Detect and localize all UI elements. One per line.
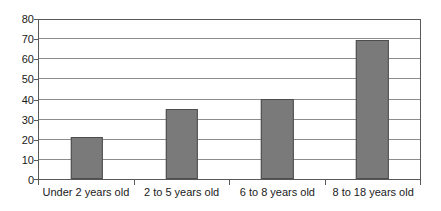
bar-slot <box>230 20 325 179</box>
bar-slot <box>325 20 420 179</box>
y-axis-tick-label: 10 <box>0 154 34 165</box>
x-axis-category-label: 6 to 8 years old <box>230 186 326 199</box>
bar <box>70 137 102 179</box>
y-axis-tick-label: 50 <box>0 74 34 85</box>
x-axis-tick-mark <box>38 180 39 185</box>
x-axis-labels: Under 2 years old2 to 5 years old6 to 8 … <box>38 186 421 199</box>
y-axis-tick-label: 20 <box>0 134 34 145</box>
x-axis-category-label: 2 to 5 years old <box>134 186 230 199</box>
x-axis-category-label: 8 to 18 years old <box>325 186 421 199</box>
bar <box>261 99 293 179</box>
bar-chart: 01020304050607080 Under 2 years old2 to … <box>0 0 441 211</box>
x-axis-ticks <box>38 180 421 185</box>
y-axis-tick-label: 80 <box>0 14 34 25</box>
x-axis-tick-mark <box>420 180 421 185</box>
y-axis-tick-label: 0 <box>0 175 34 186</box>
y-axis-tick-label: 40 <box>0 94 34 105</box>
y-axis-tick-label: 60 <box>0 54 34 65</box>
bar <box>166 109 198 179</box>
x-axis-category-label: Under 2 years old <box>38 186 134 199</box>
bar-slot <box>134 20 229 179</box>
bar-series <box>39 20 420 179</box>
x-axis-tick-mark <box>229 180 230 185</box>
y-axis-tick-label: 70 <box>0 34 34 45</box>
bar <box>356 40 388 179</box>
x-axis-tick-mark <box>325 180 326 185</box>
y-axis-labels: 01020304050607080 <box>0 19 34 180</box>
bar-slot <box>39 20 134 179</box>
y-axis-tick-label: 30 <box>0 114 34 125</box>
x-axis-tick-mark <box>134 180 135 185</box>
